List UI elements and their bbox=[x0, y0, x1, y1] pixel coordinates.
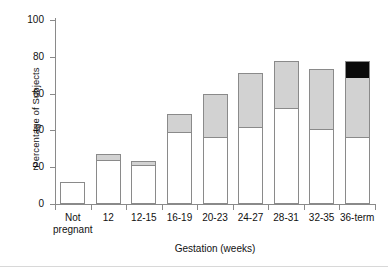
bar-stack[interactable] bbox=[274, 61, 299, 204]
x-tick-mark bbox=[304, 204, 305, 210]
bar-stack[interactable] bbox=[60, 182, 85, 204]
bar-segment-gray bbox=[239, 74, 262, 127]
bar-stack[interactable] bbox=[345, 61, 370, 204]
plot-area bbox=[55, 20, 375, 204]
bar-segment-gray bbox=[168, 115, 191, 133]
y-tick-mark bbox=[50, 57, 55, 58]
bar-segment-gray bbox=[346, 78, 369, 138]
y-tick-mark bbox=[50, 130, 55, 131]
x-tick-label: 36-term bbox=[317, 212, 388, 224]
y-tick-label: 60 bbox=[16, 89, 44, 99]
bar-segment-white bbox=[132, 166, 155, 203]
y-tick-mark bbox=[50, 94, 55, 95]
bar-segment-white bbox=[204, 138, 227, 203]
bar-group bbox=[203, 20, 228, 204]
bar-stack[interactable] bbox=[203, 94, 228, 204]
bar-stack[interactable] bbox=[96, 154, 121, 204]
bar-group bbox=[131, 20, 156, 204]
bar-stack[interactable] bbox=[167, 114, 192, 204]
x-tick-mark bbox=[91, 204, 92, 210]
bar-chart: Percentage of Subjects 020406080100 Notp… bbox=[0, 0, 388, 272]
bar-stack[interactable] bbox=[131, 161, 156, 204]
bar-segment-black bbox=[346, 62, 369, 78]
y-tick-mark bbox=[50, 20, 55, 21]
y-tick-label: 40 bbox=[16, 125, 44, 135]
x-tick-mark bbox=[55, 204, 56, 210]
bar-group bbox=[345, 20, 370, 204]
x-tick-mark bbox=[162, 204, 163, 210]
y-tick-label: 0 bbox=[16, 199, 44, 209]
bar-stack[interactable] bbox=[309, 69, 334, 204]
x-tick-mark bbox=[197, 204, 198, 210]
x-tick-mark bbox=[126, 204, 127, 210]
bar-segment-white bbox=[168, 133, 191, 203]
y-tick-label: 20 bbox=[16, 162, 44, 172]
y-tick-label: 80 bbox=[16, 52, 44, 62]
bar-stack[interactable] bbox=[238, 73, 263, 204]
scan-artifact-line bbox=[0, 266, 388, 267]
y-tick-mark bbox=[50, 167, 55, 168]
bar-segment-white bbox=[61, 183, 84, 203]
x-tick-mark bbox=[268, 204, 269, 210]
bar-segment-white bbox=[346, 138, 369, 203]
x-tick-mark bbox=[375, 204, 376, 210]
bar-group bbox=[167, 20, 192, 204]
bar-group bbox=[96, 20, 121, 204]
bar-group bbox=[274, 20, 299, 204]
bar-series-container bbox=[55, 20, 375, 204]
x-tick-mark bbox=[339, 204, 340, 210]
bar-segment-white bbox=[239, 128, 262, 203]
bar-segment-white bbox=[275, 109, 298, 203]
bar-segment-gray bbox=[275, 62, 298, 109]
x-axis-tick-marks bbox=[55, 204, 375, 210]
bar-group bbox=[309, 20, 334, 204]
bar-segment-white bbox=[310, 130, 333, 203]
x-axis-title: Gestation (weeks) bbox=[55, 243, 375, 254]
bar-group bbox=[238, 20, 263, 204]
bar-segment-gray bbox=[310, 70, 333, 130]
bar-segment-white bbox=[97, 161, 120, 203]
y-tick-label: 100 bbox=[16, 15, 44, 25]
bar-segment-gray bbox=[204, 95, 227, 138]
x-tick-mark bbox=[233, 204, 234, 210]
bar-group bbox=[60, 20, 85, 204]
